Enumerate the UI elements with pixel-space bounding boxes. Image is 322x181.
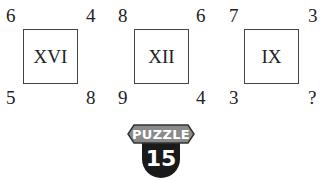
corner-bottom-left: 3 <box>229 88 239 107</box>
roman-numeral-box: XII <box>134 29 189 84</box>
badge-label-banner: PUZZLE <box>127 124 195 144</box>
corner-bottom-right: 4 <box>196 88 206 107</box>
corner-top-right: 4 <box>86 6 96 25</box>
puzzle-badge: PUZZLE 15 <box>127 124 195 181</box>
roman-numeral-box: IX <box>244 29 299 84</box>
corner-top-right: 3 <box>308 6 318 25</box>
corner-top-left: 8 <box>118 6 128 25</box>
roman-numeral-box: XVI <box>23 29 78 84</box>
corner-bottom-right: 8 <box>86 88 96 107</box>
corner-top-left: 7 <box>229 6 239 25</box>
badge-number: 15 <box>142 143 180 173</box>
corner-bottom-left: 5 <box>6 88 16 107</box>
badge-label: PUZZLE <box>127 124 195 144</box>
corner-top-right: 6 <box>196 6 206 25</box>
corner-top-left: 6 <box>6 6 16 25</box>
corner-bottom-right: ? <box>308 88 316 107</box>
corner-bottom-left: 9 <box>118 88 128 107</box>
